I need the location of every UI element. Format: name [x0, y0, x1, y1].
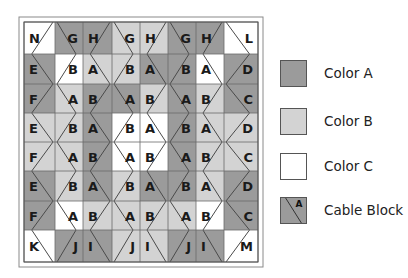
cell-label: A [125, 150, 135, 165]
cell-label: I [145, 239, 150, 254]
cell-label: A [88, 121, 98, 136]
cell-label: B [68, 179, 78, 194]
cell-label: A [201, 62, 211, 77]
legend-label: Color A [324, 65, 373, 81]
cell-label: B [68, 62, 78, 77]
cell-label: H [145, 31, 156, 46]
cell-label: H [88, 31, 99, 46]
cell-label: A [201, 179, 211, 194]
cell-label: B [145, 150, 155, 165]
cell-label: E [29, 62, 38, 77]
legend-item-cable-block: A Cable Block [280, 197, 408, 227]
cell-label: D [242, 179, 253, 194]
cell-label: B [201, 92, 211, 107]
cell-label: B [201, 209, 211, 224]
cell-label: B [125, 121, 135, 136]
cell-label: A [125, 209, 135, 224]
cell-label: F [29, 209, 38, 224]
cell-label: A [181, 150, 191, 165]
cell-label: L [245, 31, 253, 46]
cell-label: A [145, 179, 155, 194]
cell-label: N [29, 31, 40, 46]
cell-label: B [88, 209, 98, 224]
color-b-swatch [280, 108, 307, 135]
cell-label: B [181, 121, 191, 136]
cell-label: B [145, 209, 155, 224]
cell-label: A [88, 179, 98, 194]
cell-label: A [181, 92, 191, 107]
quilt-cell [168, 230, 196, 262]
cell-label: A [68, 150, 78, 165]
cell-label: A [145, 62, 155, 77]
cell-label: J [129, 239, 135, 254]
cell-label: I [88, 239, 93, 254]
cell-label: C [243, 209, 253, 224]
cell-label: G [124, 31, 135, 46]
legend-label: Color C [324, 158, 373, 174]
cell-label: B [125, 62, 135, 77]
cell-label: J [185, 239, 191, 254]
legend-label: Color B [324, 113, 373, 129]
cell-label: K [29, 239, 40, 254]
cell-label: B [181, 179, 191, 194]
cell-label: F [29, 150, 38, 165]
cell-label: D [242, 62, 253, 77]
cell-label: B [201, 150, 211, 165]
legend-label: Cable Block [324, 202, 403, 218]
svg-text:A: A [296, 199, 303, 209]
cell-label: E [29, 179, 38, 194]
cell-label: G [67, 31, 78, 46]
cell-label: B [88, 150, 98, 165]
cell-label: C [243, 150, 253, 165]
quilt-diagram: NGHGHGHLEBABABADFABABABCEBABABADFABABABC… [0, 0, 272, 278]
color-a-swatch [280, 60, 307, 87]
cell-label: A [68, 209, 78, 224]
cell-label: A [125, 92, 135, 107]
cell-label: A [145, 121, 155, 136]
cell-label: B [181, 62, 191, 77]
cell-label: A [68, 92, 78, 107]
cell-label: A [181, 209, 191, 224]
cell-label: A [88, 62, 98, 77]
quilt-cell [55, 230, 83, 262]
quilt-cell [112, 230, 140, 262]
cell-label: M [240, 239, 253, 254]
cell-label: B [125, 179, 135, 194]
cell-label: B [68, 121, 78, 136]
cell-label: F [29, 92, 38, 107]
cell-label: B [145, 92, 155, 107]
cable-block-icon: A [280, 197, 307, 224]
legend-item-color-a: Color A [280, 60, 408, 90]
legend-item-color-c: Color C [280, 153, 408, 183]
cell-label: C [243, 92, 253, 107]
legend-item-color-b: Color B [280, 108, 408, 138]
cell-label: D [242, 121, 253, 136]
cell-label: B [88, 92, 98, 107]
cell-label: G [180, 31, 191, 46]
cell-label: E [29, 121, 38, 136]
cell-label: J [72, 239, 78, 254]
cell-label: H [201, 31, 212, 46]
cell-label: I [201, 239, 206, 254]
color-c-swatch [280, 153, 307, 180]
cell-label: A [201, 121, 211, 136]
